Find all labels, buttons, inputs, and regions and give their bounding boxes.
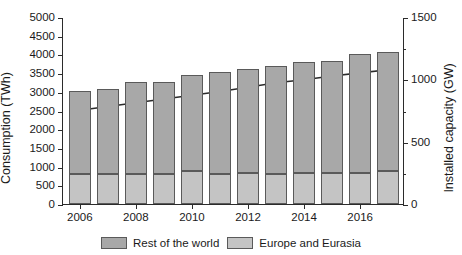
y-axis-tick <box>58 93 63 94</box>
bar-column <box>265 66 287 204</box>
y-axis-tick-label: 2000 <box>29 124 55 136</box>
y-axis-tick <box>58 205 63 206</box>
y-axis-left-title: Consumption (TWh) <box>0 43 12 213</box>
bar-segment-rest-of-the-world <box>293 62 315 173</box>
y-axis-tick <box>58 149 63 150</box>
y2-axis-tick-label: 500 <box>411 137 430 149</box>
bar-segment-europe-and-eurasia <box>97 174 119 204</box>
y2-axis-tick <box>403 18 408 19</box>
x-axis-tick-label: 2012 <box>235 212 261 224</box>
bar-column <box>377 52 399 204</box>
legend-swatch <box>227 237 253 249</box>
bar-segment-europe-and-eurasia <box>237 173 259 204</box>
y-axis-tick <box>58 74 63 75</box>
bar-segment-europe-and-eurasia <box>125 174 147 204</box>
bar-segment-europe-and-eurasia <box>265 174 287 204</box>
y2-axis-tick <box>403 205 408 206</box>
y-axis-tick <box>58 55 63 56</box>
y-axis-right-title: Installed capacity (GW) <box>443 43 456 213</box>
y-axis-tick-label: 3500 <box>29 68 55 80</box>
y-axis-tick <box>58 112 63 113</box>
bar-segment-rest-of-the-world <box>97 89 119 174</box>
x-axis-tick-label: 2008 <box>123 212 149 224</box>
bar-segment-rest-of-the-world <box>125 82 147 173</box>
x-axis-tick <box>192 204 193 209</box>
bar-segment-europe-and-eurasia <box>293 173 315 204</box>
y2-axis-tick-label: 0 <box>411 199 417 211</box>
x-axis-tick-label: 2010 <box>179 212 205 224</box>
x-axis-tick-label: 2006 <box>67 212 93 224</box>
legend-label: Rest of the world <box>133 237 219 249</box>
y2-axis-minor-tick <box>403 49 406 50</box>
legend-swatch <box>101 237 127 249</box>
y-axis-tick-label: 5000 <box>29 12 55 24</box>
bar-column <box>181 75 203 204</box>
bar-segment-rest-of-the-world <box>349 54 371 173</box>
bar-segment-rest-of-the-world <box>321 61 343 173</box>
y-axis-tick-label: 500 <box>36 181 55 193</box>
y-axis-tick <box>58 37 63 38</box>
x-axis-tick <box>248 204 249 209</box>
bar-segment-europe-and-eurasia <box>181 171 203 204</box>
bar-column <box>69 91 91 204</box>
bar-segment-rest-of-the-world <box>209 72 231 174</box>
y2-axis-minor-tick <box>403 174 406 175</box>
bar-column <box>97 89 119 204</box>
bar-segment-europe-and-eurasia <box>321 173 343 204</box>
bar-column <box>321 61 343 204</box>
plot-area: 0500100015002000250030003500400045005000… <box>62 18 404 205</box>
legend-item: Rest of the world <box>101 237 219 249</box>
bar-column <box>153 82 175 204</box>
y2-axis-tick-label: 1500 <box>411 12 437 24</box>
y2-axis-tick <box>403 80 408 81</box>
y-axis-tick <box>58 130 63 131</box>
y-axis-tick-label: 3000 <box>29 87 55 99</box>
bar-segment-europe-and-eurasia <box>349 173 371 204</box>
x-axis-tick-label: 2016 <box>347 212 373 224</box>
y-axis-tick-label: 1000 <box>29 162 55 174</box>
y-axis-tick <box>58 168 63 169</box>
bar-segment-rest-of-the-world <box>153 82 175 174</box>
y-axis-tick-label: 1500 <box>29 143 55 155</box>
y-axis-tick <box>58 186 63 187</box>
x-axis-tick <box>360 204 361 209</box>
x-axis-tick-label: 2014 <box>291 212 317 224</box>
bar-column <box>349 54 371 204</box>
y2-axis-tick <box>403 143 408 144</box>
bar-segment-europe-and-eurasia <box>69 174 91 204</box>
bar-segment-rest-of-the-world <box>265 66 287 174</box>
bar-segment-europe-and-eurasia <box>209 174 231 204</box>
y2-axis-minor-tick <box>403 112 406 113</box>
bar-segment-europe-and-eurasia <box>377 171 399 204</box>
bar-column <box>293 62 315 204</box>
y-axis-tick-label: 4500 <box>29 31 55 43</box>
y-axis-tick <box>58 18 63 19</box>
chart-figure: 0500100015002000250030003500400045005000… <box>0 0 462 255</box>
bar-segment-europe-and-eurasia <box>153 174 175 204</box>
y-axis-tick-label: 2500 <box>29 106 55 118</box>
x-axis-tick <box>80 204 81 209</box>
bar-segment-rest-of-the-world <box>237 69 259 174</box>
legend-label: Europe and Eurasia <box>259 237 361 249</box>
x-axis-tick <box>136 204 137 209</box>
bar-segment-rest-of-the-world <box>69 91 91 174</box>
legend-item: Europe and Eurasia <box>227 237 361 249</box>
chart-legend: Rest of the worldEurope and Eurasia <box>0 237 462 249</box>
y-axis-tick-label: 0 <box>49 199 55 211</box>
y2-axis-tick-label: 1000 <box>411 75 437 87</box>
bar-segment-rest-of-the-world <box>377 52 399 171</box>
bar-column <box>237 69 259 204</box>
x-axis-tick <box>304 204 305 209</box>
y-axis-tick-label: 4000 <box>29 50 55 62</box>
bar-column <box>125 82 147 204</box>
bar-column <box>209 72 231 204</box>
bar-segment-rest-of-the-world <box>181 75 203 171</box>
